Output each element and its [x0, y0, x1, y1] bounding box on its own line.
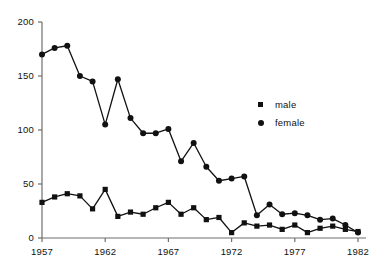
x-tick-label: 1957 [22, 246, 62, 257]
legend-label-female: female [275, 117, 305, 128]
y-tick-label: 150 [0, 70, 34, 81]
plot-area [0, 0, 383, 269]
y-tick-label: 100 [0, 124, 34, 135]
chart-legend: male female [258, 97, 305, 133]
x-tick-label: 1977 [275, 246, 315, 257]
x-tick-label: 1982 [338, 246, 378, 257]
square-marker-icon [258, 102, 270, 107]
circle-marker-icon [258, 120, 270, 126]
legend-label-male: male [275, 99, 296, 110]
y-tick-label: 200 [0, 16, 34, 27]
y-tick-label: 0 [0, 232, 34, 243]
chart-container: 050100150200 195719621967197219771982 ma… [0, 0, 383, 269]
x-tick-label: 1967 [148, 246, 188, 257]
y-tick-label: 50 [0, 178, 34, 189]
data-series-group [39, 43, 361, 236]
legend-item-male: male [258, 97, 305, 112]
legend-item-female: female [258, 115, 305, 130]
x-tick-label: 1972 [212, 246, 252, 257]
x-tick-label: 1962 [85, 246, 125, 257]
axes [38, 22, 366, 242]
